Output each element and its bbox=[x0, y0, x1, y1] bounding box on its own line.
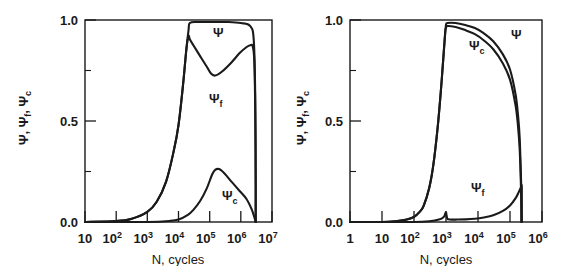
svg-text:104: 104 bbox=[464, 230, 483, 246]
right-panel-y-axis-title: Ψ, Ψf, Ψc bbox=[294, 91, 311, 145]
right-panel-x-axis-title: N, cycles bbox=[420, 252, 473, 266]
psi-f-label-left: Ψf bbox=[209, 91, 224, 109]
right-y-tick-0-5: 0.5 bbox=[325, 114, 343, 129]
psi-f-label-right: Ψf bbox=[471, 180, 486, 198]
svg-text:102: 102 bbox=[400, 230, 419, 246]
left-panel-x-axis-title: N, cycles bbox=[152, 252, 205, 266]
figure-container: Ψ, Ψf, Ψc 1.0 0.5 0.0 10 bbox=[0, 0, 571, 266]
left-panel: Ψ, Ψf, Ψc 1.0 0.5 0.0 10 bbox=[0, 0, 286, 266]
svg-text:105: 105 bbox=[496, 230, 515, 246]
right-plot-frame bbox=[350, 20, 542, 222]
psi-label-right: Ψ bbox=[511, 27, 522, 42]
svg-text:106: 106 bbox=[528, 230, 547, 246]
left-panel-y-axis-title: Ψ, Ψf, Ψc bbox=[16, 91, 33, 145]
svg-text:103: 103 bbox=[432, 230, 451, 246]
svg-text:10: 10 bbox=[375, 231, 389, 246]
svg-text:102: 102 bbox=[102, 230, 121, 246]
psi-c-label-right: Ψc bbox=[469, 38, 485, 56]
right-y-tick-1-0: 1.0 bbox=[325, 13, 343, 28]
svg-text:104: 104 bbox=[165, 230, 184, 246]
psi-label-left: Ψ bbox=[213, 25, 224, 40]
svg-text:10: 10 bbox=[78, 231, 92, 246]
svg-text:103: 103 bbox=[134, 230, 153, 246]
curve-psi-c-right bbox=[350, 26, 522, 222]
left-x-tick-labels: 10 102 103 104 105 106 107 bbox=[78, 230, 278, 246]
svg-text:1: 1 bbox=[346, 231, 353, 246]
svg-text:Ψ, Ψf, Ψc: Ψ, Ψf, Ψc bbox=[294, 91, 311, 145]
svg-text:107: 107 bbox=[258, 230, 277, 246]
curve-psi-f-right bbox=[350, 185, 522, 222]
svg-text:105: 105 bbox=[196, 230, 215, 246]
right-y-tick-0-0: 0.0 bbox=[325, 215, 343, 230]
left-y-ticks bbox=[85, 20, 96, 222]
left-y-tick-0-0: 0.0 bbox=[60, 215, 78, 230]
left-y-tick-0-5: 0.5 bbox=[60, 114, 78, 129]
right-panel: Ψ, Ψf, Ψc 1.0 0.5 0.0 1 bbox=[286, 0, 571, 266]
left-y-tick-1-0: 1.0 bbox=[60, 13, 78, 28]
svg-text:Ψ, Ψf, Ψc: Ψ, Ψf, Ψc bbox=[16, 91, 33, 145]
psi-c-label-left: Ψc bbox=[222, 188, 238, 206]
svg-text:106: 106 bbox=[227, 230, 246, 246]
right-y-ticks bbox=[350, 20, 361, 222]
right-x-tick-labels: 1 10 102 103 104 105 106 bbox=[346, 230, 547, 246]
